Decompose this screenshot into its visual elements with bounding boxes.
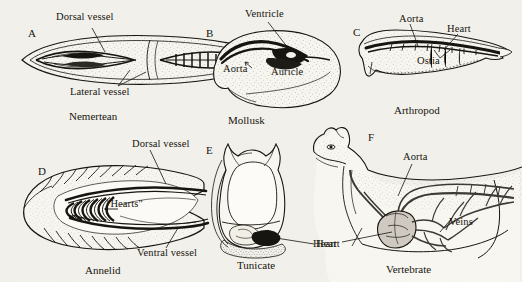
label-d-ventral-vessel: Ventral vessel	[137, 248, 197, 259]
caption-c-arthropod: Arthropod	[394, 104, 440, 116]
panel-e-tunicate-drawing	[211, 144, 314, 258]
caption-e-tunicate: Tunicate	[237, 259, 275, 271]
label-b-auricle: Auricle	[271, 67, 303, 78]
caption-d-annelid: Annelid	[85, 264, 120, 276]
circulatory-systems-figure: A Dorsal vessel Lateral vessel Nemertean…	[0, 0, 522, 282]
panel-c-arthropod-drawing	[359, 24, 512, 76]
label-a-dorsal-vessel: Dorsal vessel	[56, 12, 114, 23]
figure-artwork	[0, 0, 522, 282]
label-b-aorta: Aorta	[223, 64, 247, 75]
label-d-hearts: "Hearts"	[106, 199, 143, 210]
label-c-aorta: Aorta	[399, 14, 423, 25]
label-b-ventricle: Ventricle	[245, 9, 284, 20]
panel-letter-d: D	[38, 165, 46, 177]
panel-letter-c: C	[353, 26, 360, 38]
panel-letter-f: F	[368, 131, 374, 143]
label-c-heart: Heart	[447, 24, 471, 35]
caption-b-mollusk: Mollusk	[228, 114, 265, 126]
label-d-dorsal-vessel: Dorsal vessel	[132, 139, 190, 150]
caption-a-nemertean: Nemertean	[69, 110, 117, 122]
panel-letter-a: A	[28, 27, 36, 39]
label-f-aorta: Aorta	[403, 152, 427, 163]
label-f-heart: Heart	[313, 239, 337, 250]
label-a-lateral-vessel: Lateral vessel	[70, 87, 129, 98]
panel-letter-b: B	[206, 27, 213, 39]
label-f-veins: Veins	[449, 217, 473, 228]
panel-letter-e: E	[206, 144, 213, 156]
label-c-ostia: Ostia	[417, 56, 440, 67]
caption-f-vertebrate: Vertebrate	[386, 263, 431, 275]
